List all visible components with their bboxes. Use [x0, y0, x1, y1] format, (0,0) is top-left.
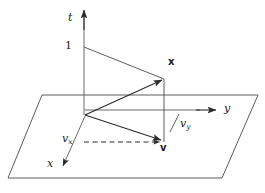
ground-plane	[8, 95, 258, 178]
y-axis-label: y	[224, 103, 230, 114]
component-vy-label: vy	[180, 118, 190, 130]
vector-v-arrow	[85, 115, 161, 140]
unit-to-x-guide-line	[84, 47, 164, 79]
unit-tick-label: 1	[65, 40, 72, 51]
figure-root: t 1 y x x v vx vy	[0, 0, 265, 193]
component-vx-label: vx	[62, 133, 72, 145]
component-vx-subscript: x	[68, 137, 72, 146]
vy-tick-mark	[170, 114, 179, 132]
component-vy-subscript: y	[186, 122, 190, 131]
x-axis-label: x	[47, 158, 53, 169]
vector-v-label: v	[160, 143, 167, 153]
vector-x-label: x	[168, 57, 174, 67]
coordinate-diagram	[0, 0, 265, 193]
t-axis-label: t	[68, 12, 72, 23]
